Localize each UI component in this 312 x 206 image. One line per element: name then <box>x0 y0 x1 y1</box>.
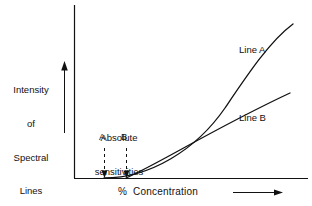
spectral-intensity-chart: Intensity of Spectral Lines % Concentrat… <box>0 0 312 206</box>
arrow-up-icon <box>61 61 68 133</box>
y-axis-title-line-1: Intensity <box>2 84 60 95</box>
line-b-label: Line B <box>239 112 266 123</box>
y-axis-title: Intensity of Spectral Lines <box>2 62 60 206</box>
absolute-sensitivities-line-2: sensitivities <box>88 166 150 177</box>
line-a-label: Line A <box>239 44 265 55</box>
curve-line-b <box>126 93 290 178</box>
absolute-sensitivities-annotation: Absolute sensitivities <box>88 110 150 200</box>
y-axis-title-line-4: Lines <box>2 185 60 196</box>
marker-b-label: B <box>121 131 127 142</box>
arrow-right-icon <box>233 189 283 195</box>
marker-a-label: A <box>99 131 105 142</box>
y-axis-title-line-2: of <box>2 118 60 129</box>
absolute-sensitivities-line-1: Absolute <box>88 132 150 143</box>
y-axis-title-line-3: Spectral <box>2 152 60 163</box>
